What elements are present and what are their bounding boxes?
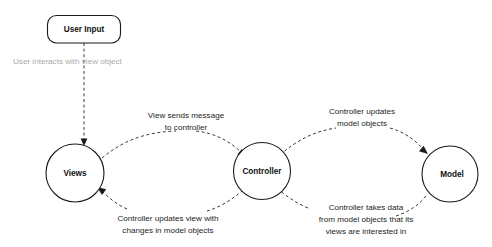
edge-label-controller-updates-model: Controller updates model objects <box>329 107 395 128</box>
arrowhead-into-model-topleft <box>419 146 428 154</box>
view-sends-label-line1: View sends message <box>148 111 225 120</box>
edge-label-controller-updates-view: Controller updates view with changes in … <box>117 214 218 235</box>
controller-updates-view-line1: Controller updates view with <box>117 214 218 223</box>
controller-takes-data-line1: Controller takes data <box>329 203 404 212</box>
views-label: Views <box>63 169 87 178</box>
edge-path-model-to-controller-b <box>278 189 308 208</box>
edge-label-view-sends-message: View sends message to controller <box>148 111 225 132</box>
mvc-diagram-root: User Input Views Controller Model User i… <box>0 0 492 247</box>
user-interacts-label-line1: User interacts with view object <box>13 57 123 66</box>
edge-path-controller-to-views-b <box>103 192 127 209</box>
user-input-label: User Input <box>64 25 105 34</box>
node-model[interactable]: Model <box>422 146 478 202</box>
edge-path-views-to-controller-a <box>102 131 176 158</box>
edge-label-controller-takes-data: Controller takes data from model objects… <box>319 203 413 236</box>
edge-path-controller-to-model-a <box>280 128 336 155</box>
node-user-input[interactable]: User Input <box>48 16 121 44</box>
edge-label-user-interacts: User interacts with view object <box>13 57 123 66</box>
controller-updates-view-line2: changes in model objects <box>122 226 213 235</box>
controller-updates-model-line2: model objects <box>337 119 387 128</box>
edge-path-views-to-controller-b <box>196 131 241 152</box>
edge-controller-to-views <box>97 187 243 211</box>
model-label: Model <box>440 170 464 179</box>
diagram-canvas: User Input Views Controller Model User i… <box>0 0 492 247</box>
edge-views-to-controller <box>102 131 247 158</box>
edge-path-controller-to-views-a <box>207 190 243 211</box>
node-views[interactable]: Views <box>46 144 104 202</box>
edge-controller-to-model <box>280 128 428 155</box>
view-sends-label-line2: to controller <box>165 123 208 132</box>
controller-label: Controller <box>242 167 282 176</box>
controller-takes-data-line3: views are interested in <box>326 227 407 236</box>
controller-updates-model-line1: Controller updates <box>329 107 395 116</box>
controller-takes-data-line2: from model objects that its <box>319 215 413 224</box>
edge-path-controller-to-model-b <box>390 128 423 149</box>
node-controller[interactable]: Controller <box>234 143 291 200</box>
